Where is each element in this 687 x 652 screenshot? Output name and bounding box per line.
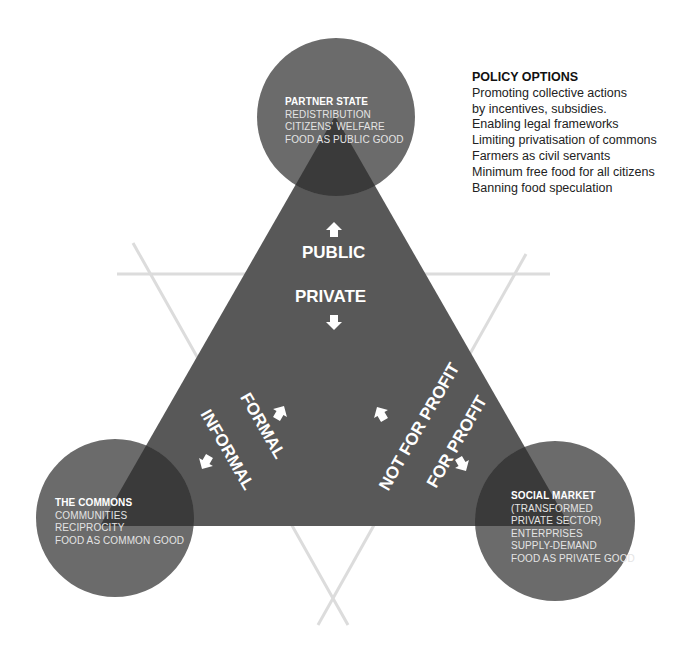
label-private: PRIVATE [295, 287, 366, 307]
partner-state-line: REDISTRIBUTION [285, 109, 404, 122]
policy-option-item: Banning food speculation [472, 181, 657, 197]
policy-option-item: Farmers as civil servants [472, 149, 657, 165]
partner-state-text: PARTNER STATE REDISTRIBUTION CITIZENS' W… [285, 96, 404, 146]
partner-state-line: CITIZENS' WELFARE [285, 121, 404, 134]
social-market-text: SOCIAL MARKET (TRANSFORMED PRIVATE SECTO… [511, 490, 635, 565]
partner-state-title: PARTNER STATE [285, 96, 404, 109]
policy-options: POLICY OPTIONS Promoting collective acti… [472, 70, 657, 196]
policy-option-item: Minimum free food for all citizens [472, 165, 657, 181]
social-market-line: (TRANSFORMED [511, 503, 635, 516]
policy-option-item: Enabling legal frameworks [472, 117, 657, 133]
policy-options-title: POLICY OPTIONS [472, 70, 657, 86]
the-commons-line: RECIPROCITY [55, 522, 184, 535]
the-commons-title: THE COMMONS [55, 497, 184, 510]
policy-option-item: by incentives, subsidies. [472, 102, 657, 118]
the-commons-line: COMMUNITIES [55, 510, 184, 523]
label-public: PUBLIC [302, 243, 365, 263]
policy-option-item: Limiting privatisation of commons [472, 133, 657, 149]
social-market-line: SUPPLY-DEMAND [511, 540, 635, 553]
social-market-line: PRIVATE SECTOR) [511, 515, 635, 528]
the-commons-text: THE COMMONS COMMUNITIES RECIPROCITY FOOD… [55, 497, 184, 547]
social-market-line: ENTERPRISES [511, 528, 635, 541]
policy-option-item: Promoting collective actions [472, 86, 657, 102]
the-commons-line: FOOD AS COMMON GOOD [55, 535, 184, 548]
social-market-title: SOCIAL MARKET [511, 490, 635, 503]
social-market-line: FOOD AS PRIVATE GOOD [511, 553, 635, 566]
partner-state-line: FOOD AS PUBLIC GOOD [285, 134, 404, 147]
